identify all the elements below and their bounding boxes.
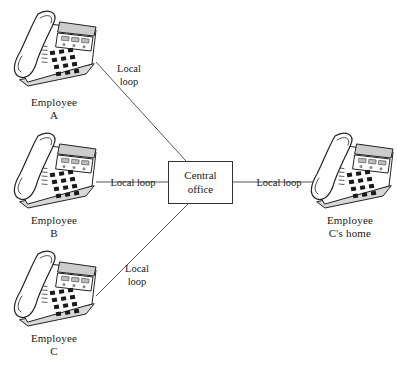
central-office-label: Central office: [168, 168, 233, 196]
node-employee-b[interactable]: [8, 128, 100, 222]
label-link-a: Local loop: [104, 62, 154, 88]
label-link-home: Local loop: [246, 176, 312, 189]
label-employee-c-home-line2: C's home: [303, 227, 397, 240]
label-link-c: Local loop: [112, 262, 162, 288]
label-link-b-line1: Local loop: [100, 176, 166, 189]
diagram-canvas: Central office: [0, 0, 397, 368]
label-employee-c-home-line1: Employee: [303, 214, 397, 227]
label-link-a-line1: Local: [104, 62, 154, 75]
label-employee-a: Employee A: [8, 96, 100, 122]
label-link-home-line1: Local loop: [246, 176, 312, 189]
central-office-label-line2: office: [168, 182, 233, 196]
label-link-a-line2: loop: [104, 75, 154, 88]
desk-telephone-icon: [305, 128, 397, 218]
label-employee-a-line1: Employee: [8, 96, 100, 109]
desk-telephone-icon: [8, 246, 100, 336]
central-office-label-line1: Central: [168, 168, 233, 182]
label-link-b: Local loop: [100, 176, 166, 189]
label-employee-c: Employee C: [8, 332, 100, 358]
node-employee-a[interactable]: [8, 6, 100, 100]
label-employee-a-line2: A: [8, 109, 100, 122]
label-employee-c-home: Employee C's home: [303, 214, 397, 240]
label-employee-b-line2: B: [8, 227, 100, 240]
node-employee-c-home[interactable]: [305, 128, 397, 222]
label-employee-b-line1: Employee: [8, 214, 100, 227]
label-employee-b: Employee B: [8, 214, 100, 240]
desk-telephone-icon: [8, 6, 100, 96]
label-link-c-line2: loop: [112, 275, 162, 288]
desk-telephone-icon: [8, 128, 100, 218]
label-employee-c-line1: Employee: [8, 332, 100, 345]
node-employee-c[interactable]: [8, 246, 100, 340]
label-link-c-line1: Local: [112, 262, 162, 275]
label-employee-c-line2: C: [8, 345, 100, 358]
